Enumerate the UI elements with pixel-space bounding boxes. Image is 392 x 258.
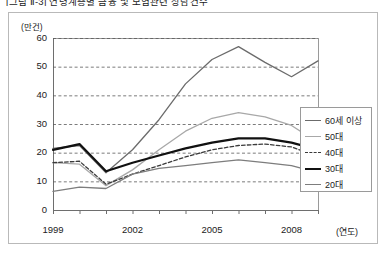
x-tick-label: 2002: [113, 224, 153, 235]
y-tick-label: 10: [21, 175, 47, 186]
y-tick-label: 50: [21, 60, 47, 71]
legend-line-swatch: [305, 163, 321, 173]
legend-item-label: 20대: [325, 178, 343, 191]
y-tick-label: 20: [21, 146, 47, 157]
y-tick-label: 40: [21, 89, 47, 100]
y-tick-label: 0: [21, 204, 47, 215]
legend-line-swatch: [305, 147, 321, 157]
legend-item-label: 40대: [325, 146, 343, 159]
x-tick-label: 2005: [192, 224, 232, 235]
legend-line-swatch: [305, 115, 321, 125]
legend-item-label: 50대: [325, 130, 343, 143]
legend-item-3[interactable]: 40대: [305, 144, 371, 160]
legend-item-label: 30대: [325, 162, 343, 175]
legend-item-5[interactable]: 20대: [305, 176, 371, 192]
legend-item-label: 60세 이상: [325, 114, 362, 127]
legend-line-swatch: [305, 131, 321, 141]
y-tick-label: 30: [21, 118, 47, 129]
x-tick-label: 2008: [272, 224, 312, 235]
legend-item-1[interactable]: 60세 이상: [305, 112, 371, 128]
legend-item-2[interactable]: 50대: [305, 128, 371, 144]
x-tick-label: 1999: [33, 224, 73, 235]
figure-root: [그림 Ⅱ-3] 연령계층별 금융 및 보험관련 상담건수 (만건) (연도) …: [0, 0, 392, 258]
y-tick-label: 60: [21, 32, 47, 43]
legend-line-swatch: [305, 179, 321, 189]
chart-legend: 60세 이상50대40대30대20대: [300, 107, 372, 192]
legend-item-4[interactable]: 30대: [305, 160, 371, 176]
